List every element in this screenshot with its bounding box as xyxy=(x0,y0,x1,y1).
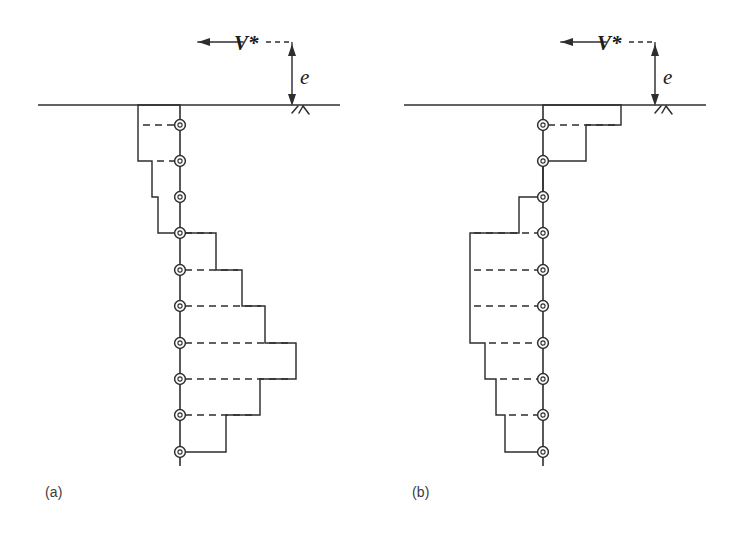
pile-node xyxy=(538,228,549,239)
pile-node xyxy=(175,265,186,276)
eccentricity-dimension-a xyxy=(288,44,296,106)
load-arrow-head-a xyxy=(198,38,210,46)
pile-node xyxy=(538,301,549,312)
ground-hatch-icon-b xyxy=(655,106,672,114)
pile-node xyxy=(175,374,186,385)
load-arrow-head-b xyxy=(561,38,573,46)
panel-caption-b: (b) xyxy=(412,484,430,500)
pile-node xyxy=(538,120,549,131)
pile-node xyxy=(538,447,549,458)
pile-node xyxy=(538,192,549,203)
pile-node xyxy=(538,410,549,421)
load-label-a: V* xyxy=(234,31,259,55)
ground-hatch-icon-a xyxy=(292,106,309,114)
pile-node xyxy=(175,447,186,458)
panel-caption-a: (a) xyxy=(45,484,63,500)
pile-node xyxy=(538,338,549,349)
eccentricity-label-b: e xyxy=(663,65,672,89)
eccentricity-arrowhead-top-a xyxy=(288,44,296,56)
pile-node xyxy=(175,192,186,203)
panel-a: V* e xyxy=(38,31,340,466)
panel-b: V* e xyxy=(404,31,706,466)
eccentricity-label-a: e xyxy=(300,65,309,89)
pile-node xyxy=(538,156,549,167)
eccentricity-arrowhead-top-b xyxy=(651,44,659,56)
pressure-step-outline-a xyxy=(138,105,296,452)
pile-node xyxy=(175,156,186,167)
pile-node xyxy=(175,120,186,131)
pile-node xyxy=(538,374,549,385)
pile-node xyxy=(175,301,186,312)
eccentricity-dimension-b xyxy=(651,44,659,106)
load-label-b: V* xyxy=(597,31,622,55)
pile-node xyxy=(175,338,186,349)
pile-node xyxy=(175,410,186,421)
pile-node xyxy=(175,228,186,239)
figure-canvas: V* e xyxy=(0,0,731,539)
pile-node xyxy=(538,265,549,276)
